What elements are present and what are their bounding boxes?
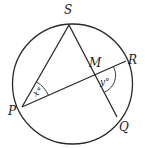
angle-label-y: y°	[99, 77, 110, 87]
point-label-r: R	[127, 53, 137, 67]
point-label-q: Q	[119, 120, 129, 134]
chord-sq	[69, 25, 117, 117]
chord-ps	[22, 25, 69, 107]
circle-diagram: S M R P Q x° y°	[0, 0, 145, 148]
point-label-s: S	[64, 3, 72, 17]
point-label-m: M	[88, 56, 102, 70]
chord-pr	[22, 61, 126, 107]
point-label-p: P	[7, 104, 17, 118]
